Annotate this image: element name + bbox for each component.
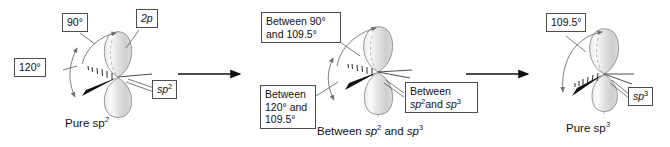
callout-orbital-sp2-base: sp [157,83,168,95]
callout-angle-109-5-label: 109.5° [551,16,581,28]
caption-between-c: and [381,125,407,137]
callout-between-120-109-line2: 120° and [265,101,311,114]
callout-orbital-sp3-sup: 3 [644,89,648,98]
sp3-base: sp [446,98,457,110]
leader-line-90 [80,33,95,44]
callout-between-120-109[interactable]: Between 120° and 109.5° [260,85,316,129]
caption-between-sp2-sp3: Between sp2 and sp3 [317,125,423,137]
caption-between-b: sp [365,125,377,137]
p-orbital-top-lobe [590,29,619,74]
callout-between-sp2-sp3[interactable]: Between sp2and sp3 [405,82,478,113]
callout-angle-120-label: 120° [19,61,41,73]
p-orbital-bottom-lobe [104,78,131,118]
caption-pure-sp2-sup: 2 [105,115,109,124]
sigma-bond-plain [378,70,412,72]
and-text: and [425,98,445,110]
sp3-sup: 3 [457,96,461,105]
angle-arc-120 [70,48,77,97]
sigma-bond-hashed [348,64,372,76]
p-orbital-bottom-lobe [592,75,617,112]
callout-between-120-109-line3: 109.5° [265,113,311,126]
callout-between-90-109-line2: and 109.5° [266,28,336,41]
leader-line-109-5 [566,36,586,52]
p-orbital-bottom-lobe [364,73,392,115]
caption-between-a: Between [317,125,365,137]
callout-angle-109-5[interactable]: 109.5° [546,13,586,32]
p-orbital-top-lobe [104,32,131,77]
callout-between-90-109-line1: Between 90° [266,15,336,28]
caption-between-d: sp [407,125,419,137]
caption-between-d-sup: 3 [419,123,423,132]
callout-angle-90[interactable]: 90° [62,13,88,32]
callout-orbital-sp3-base: sp [633,90,644,102]
caption-pure-sp2: Pure sp2 [65,117,109,129]
sp2-base: sp [410,98,421,110]
angle-arc-lower [328,58,334,100]
callout-between-120-109-line1: Between [265,88,311,101]
orbital-figure-sp2 [63,30,154,120]
caption-pure-sp2-base: Pure sp [65,117,105,129]
caption-pure-sp3: Pure sp3 [566,122,610,134]
caption-pure-sp3-base: Pure sp [566,122,606,134]
callout-between-sp2-sp3-line1: Between [410,85,473,98]
callout-orbital-2p-label: 2p [141,12,153,24]
figure-canvas: 90° 2p 120° sp2 Pure sp2 Between 90° and… [0,0,670,147]
callout-orbital-sp3[interactable]: sp3 [628,87,653,106]
callout-between-90-109[interactable]: Between 90° and 109.5° [261,12,341,43]
leader-line-upper [340,42,360,56]
callout-orbital-sp2-sup: 2 [168,82,172,91]
sigma-bond-plain [118,74,152,77]
leader-line-sp2-a [128,79,154,88]
caption-pure-sp3-sup: 3 [606,120,610,129]
p-orbital-top-lobe [364,27,393,72]
callout-orbital-2p[interactable]: 2p [136,9,158,28]
leader-line-lower [316,82,338,96]
callout-orbital-sp2[interactable]: sp2 [152,80,177,99]
orbital-figure-sp3 [563,29,634,118]
callout-angle-90-label: 90° [67,16,83,28]
callout-between-sp2-sp3-line2: sp2and sp3 [410,98,473,111]
callout-angle-120[interactable]: 120° [14,58,46,77]
